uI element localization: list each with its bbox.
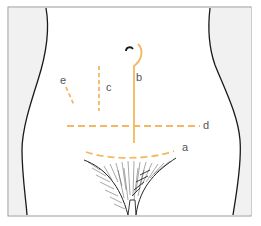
label-a: a: [182, 142, 188, 153]
label-e: e: [60, 75, 66, 86]
diagram-canvas: [0, 0, 261, 226]
label-d: d: [203, 120, 209, 131]
abdominal-incision-diagram: e c b d a: [0, 0, 261, 226]
label-b: b: [136, 72, 142, 83]
label-c: c: [106, 82, 112, 93]
